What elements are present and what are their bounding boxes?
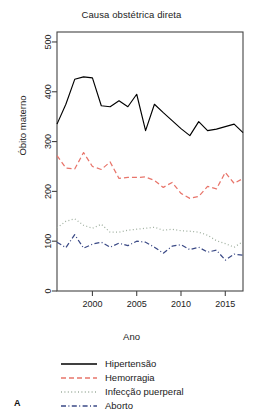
- legend-label-aborto: Aborto: [105, 400, 133, 412]
- legend-key-hemorragia: [60, 372, 98, 384]
- figure-panel: Causa obstétrica direta Óbito materno An…: [0, 0, 263, 416]
- legend-label-infeccao-puerperal: Infecção puerperal: [105, 386, 184, 398]
- legend-item-hipertensao: Hipertensão: [60, 357, 260, 371]
- svg-text:200: 200: [43, 184, 53, 199]
- svg-text:2010: 2010: [171, 299, 191, 309]
- svg-text:100: 100: [43, 234, 53, 249]
- x-axis-label: Ano: [0, 331, 263, 342]
- svg-text:400: 400: [43, 84, 53, 99]
- svg-text:500: 500: [43, 34, 53, 49]
- chart-legend: Hipertensão Hemorragia Infecção puerpera…: [60, 357, 260, 413]
- legend-label-hipertensao: Hipertensão: [105, 358, 156, 370]
- legend-item-aborto: Aborto: [60, 399, 260, 413]
- svg-text:2000: 2000: [82, 299, 102, 309]
- svg-text:2015: 2015: [215, 299, 235, 309]
- svg-text:300: 300: [43, 134, 53, 149]
- legend-item-infeccao-puerperal: Infecção puerperal: [60, 385, 260, 399]
- svg-text:0: 0: [43, 288, 53, 293]
- svg-text:2005: 2005: [127, 299, 147, 309]
- legend-key-hipertensao: [60, 358, 98, 370]
- panel-label: A: [14, 398, 21, 408]
- legend-key-infeccao-puerperal: [60, 386, 98, 398]
- line-chart-plot: 01002003004005002000200520102015: [0, 0, 263, 320]
- legend-label-hemorragia: Hemorragia: [105, 372, 155, 384]
- legend-item-hemorragia: Hemorragia: [60, 371, 260, 385]
- legend-key-aborto: [60, 400, 98, 412]
